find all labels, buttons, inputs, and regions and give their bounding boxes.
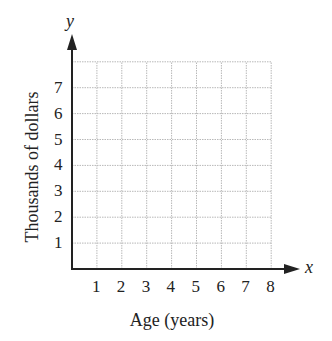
- axes: [67, 34, 300, 274]
- y-tick-label: 5: [54, 131, 63, 148]
- y-tick-label: 1: [54, 234, 63, 251]
- x-axis-title: Age (years): [72, 311, 272, 329]
- x-axis-arrow-icon: [284, 264, 300, 274]
- x-tick-label: 1: [92, 278, 101, 295]
- x-tick-label: 8: [266, 278, 275, 295]
- grid-lines: [72, 62, 271, 269]
- y-tick-label: 3: [54, 182, 63, 199]
- x-axis-name: x: [305, 259, 313, 276]
- x-tick-label: 4: [167, 278, 176, 295]
- y-axis-name: y: [66, 13, 74, 30]
- x-tick-label: 2: [117, 278, 126, 295]
- y-tick-label: 4: [54, 156, 63, 173]
- y-tick-label: 7: [54, 79, 63, 96]
- y-axis-title: Thousands of dollars: [23, 67, 41, 267]
- y-tick-label: 2: [54, 208, 63, 225]
- x-tick-label: 7: [241, 278, 250, 295]
- y-axis-arrow-icon: [67, 34, 77, 50]
- x-tick-label: 5: [192, 278, 201, 295]
- x-tick-label: 6: [216, 278, 225, 295]
- x-tick-label: 3: [142, 278, 151, 295]
- y-tick-label: 6: [54, 105, 63, 122]
